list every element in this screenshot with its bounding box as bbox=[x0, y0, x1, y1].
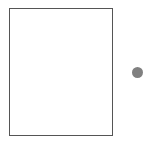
rectangle-shape bbox=[9, 8, 113, 136]
circle-dot-icon bbox=[132, 67, 143, 78]
